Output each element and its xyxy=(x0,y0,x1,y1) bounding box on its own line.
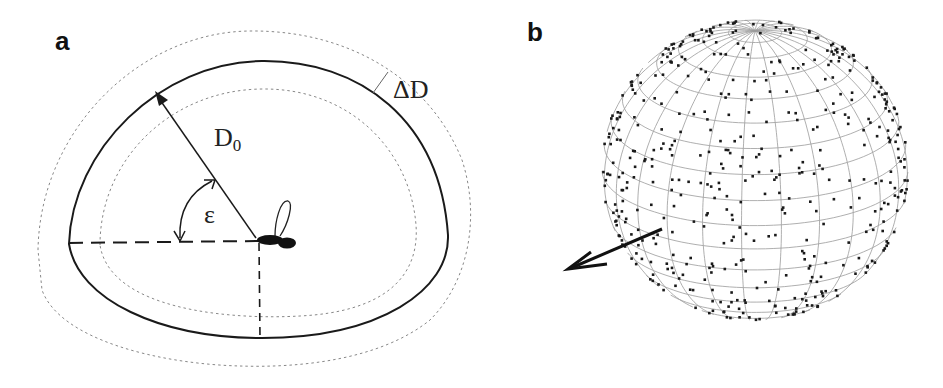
panel-b-diagram xyxy=(0,0,943,388)
heading-arrow-icon xyxy=(568,229,662,269)
sphere-wireframe xyxy=(602,20,908,320)
